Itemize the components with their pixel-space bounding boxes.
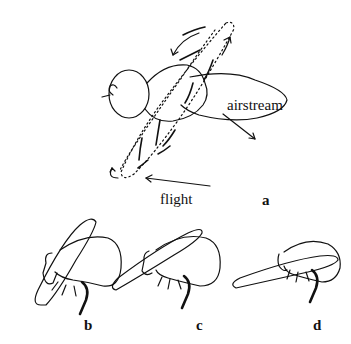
wing-path-envelope (121, 22, 234, 177)
flight-label: flight (160, 192, 193, 207)
bee-illustration-c (112, 230, 220, 309)
diagram-canvas (0, 0, 351, 344)
airstream-arrow (223, 114, 255, 139)
fly-head (109, 70, 149, 118)
curved-arrow-upper-right (222, 37, 230, 55)
bee-illustration-d (233, 241, 340, 302)
panel-label-c: c (196, 318, 203, 333)
flight-arrow (146, 178, 210, 186)
fly-antenna (102, 85, 117, 97)
airstream-label: airstream (227, 98, 283, 113)
panel-label-b: b (84, 318, 92, 333)
panel-label-a: a (262, 193, 270, 208)
panel-label-d: d (313, 318, 321, 333)
bee-illustration-b (35, 219, 121, 314)
wing-d (233, 256, 338, 289)
